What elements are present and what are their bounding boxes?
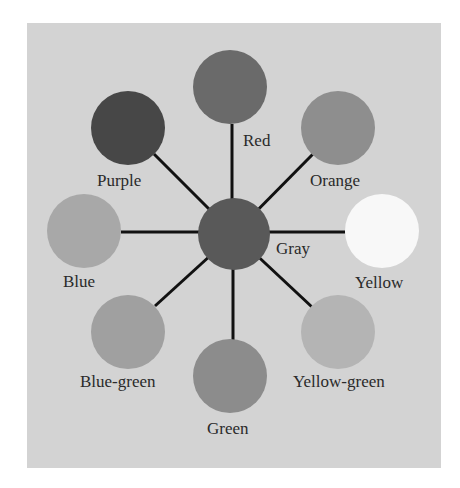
label-blue-green: Blue-green <box>80 373 156 390</box>
label-purple: Purple <box>97 172 141 189</box>
circle-purple <box>91 91 165 165</box>
label-green: Green <box>207 420 249 437</box>
circle-orange <box>301 91 375 165</box>
label-yellow-green: Yellow-green <box>293 373 385 390</box>
circle-blue <box>47 194 121 268</box>
circle-yellow-green <box>301 295 375 369</box>
circle-yellow <box>345 194 419 268</box>
label-gray: Gray <box>276 240 310 257</box>
label-blue: Blue <box>63 273 95 290</box>
circle-red <box>193 50 267 124</box>
label-red: Red <box>243 132 270 149</box>
color-wheel-diagram <box>0 0 460 488</box>
label-yellow: Yellow <box>355 274 403 291</box>
label-orange: Orange <box>310 172 360 189</box>
circle-gray-center <box>198 198 270 270</box>
circle-green <box>193 339 267 413</box>
circle-blue-green <box>91 295 165 369</box>
